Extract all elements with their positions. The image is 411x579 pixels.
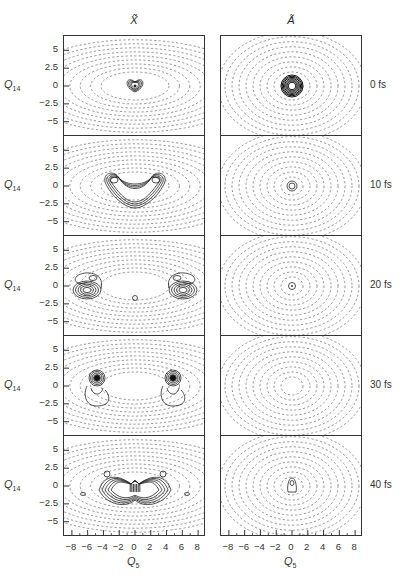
contour-plot [64, 336, 205, 436]
contour-panel-a-40fs [220, 435, 362, 536]
contour-plot [221, 36, 362, 136]
y-axis-name: Q [4, 278, 13, 290]
contour-panel-x-0fs [63, 35, 205, 136]
y-tick-label: −2.5 [32, 197, 58, 208]
y-axis-name: Q [4, 78, 13, 90]
y-tick-label: −5 [32, 215, 58, 226]
y-tick-label: 0 [32, 79, 58, 90]
y-axis-name: Q [4, 378, 13, 390]
y-axis-name: Q [4, 178, 13, 190]
x-axis-name: Q [284, 555, 293, 567]
y-axis-subscript: 14 [13, 385, 21, 392]
y-tick-label: 0 [32, 379, 58, 390]
time-label-30fs: 30 fs [370, 379, 392, 390]
contour-plot [221, 136, 362, 236]
x-tick-label: 8 [344, 541, 364, 552]
y-axis-name: Q [4, 478, 13, 490]
contour-panel-x-30fs [63, 335, 205, 436]
contour-panel-a-20fs [220, 235, 362, 336]
y-axis-subscript: 14 [13, 285, 21, 292]
time-label-20fs: 20 fs [370, 279, 392, 290]
y-axis-subscript: 14 [13, 85, 21, 92]
time-label-0fs: 0 fs [370, 79, 386, 90]
y-axis-label: Q14 [4, 178, 20, 192]
contour-plot [64, 436, 205, 536]
x-tick-label: 8 [187, 541, 207, 552]
y-tick-label: −5 [32, 515, 58, 526]
x-axis-name: Q [127, 555, 136, 567]
y-tick-label: 2.5 [32, 461, 58, 472]
y-tick-label: 2.5 [32, 261, 58, 272]
y-tick-label: −5 [32, 115, 58, 126]
time-label-40fs: 40 fs [370, 479, 392, 490]
contour-panel-a-30fs [220, 335, 362, 436]
y-tick-label: −5 [32, 415, 58, 426]
column-title-a-state: Ã [271, 14, 311, 26]
y-axis-label: Q14 [4, 378, 20, 392]
x-axis-subscript: 5 [136, 562, 140, 569]
contour-panel-x-20fs [63, 235, 205, 336]
y-tick-label: 5 [32, 143, 58, 154]
contour-panel-x-10fs [63, 135, 205, 236]
y-tick-label: 2.5 [32, 361, 58, 372]
contour-plot [221, 336, 362, 436]
contour-panel-a-0fs [220, 35, 362, 136]
column-title-x-state: X̃ [114, 14, 154, 26]
contour-plot [221, 236, 362, 336]
contour-plot [64, 236, 205, 336]
y-tick-label: −2.5 [32, 97, 58, 108]
y-tick-label: 5 [32, 243, 58, 254]
y-tick-label: 2.5 [32, 161, 58, 172]
y-tick-label: 0 [32, 279, 58, 290]
contour-panel-a-10fs [220, 135, 362, 236]
x-axis-label: Q5 [127, 555, 139, 569]
contour-plot [221, 436, 362, 536]
y-axis-label: Q14 [4, 278, 20, 292]
contour-panel-x-40fs [63, 435, 205, 536]
y-axis-subscript: 14 [13, 485, 21, 492]
y-tick-label: 5 [32, 343, 58, 354]
x-axis-label: Q5 [284, 555, 296, 569]
y-axis-label: Q14 [4, 78, 20, 92]
y-tick-label: 0 [32, 479, 58, 490]
contour-plot [64, 36, 205, 136]
y-axis-subscript: 14 [13, 185, 21, 192]
x-axis-subscript: 5 [293, 562, 297, 569]
contour-plot [64, 136, 205, 236]
y-tick-label: 5 [32, 443, 58, 454]
y-tick-label: −5 [32, 315, 58, 326]
y-tick-label: −2.5 [32, 297, 58, 308]
y-tick-label: −2.5 [32, 497, 58, 508]
y-tick-label: 2.5 [32, 61, 58, 72]
y-tick-label: 0 [32, 179, 58, 190]
y-tick-label: 5 [32, 43, 58, 54]
time-label-10fs: 10 fs [370, 179, 392, 190]
y-tick-label: −2.5 [32, 397, 58, 408]
y-axis-label: Q14 [4, 478, 20, 492]
